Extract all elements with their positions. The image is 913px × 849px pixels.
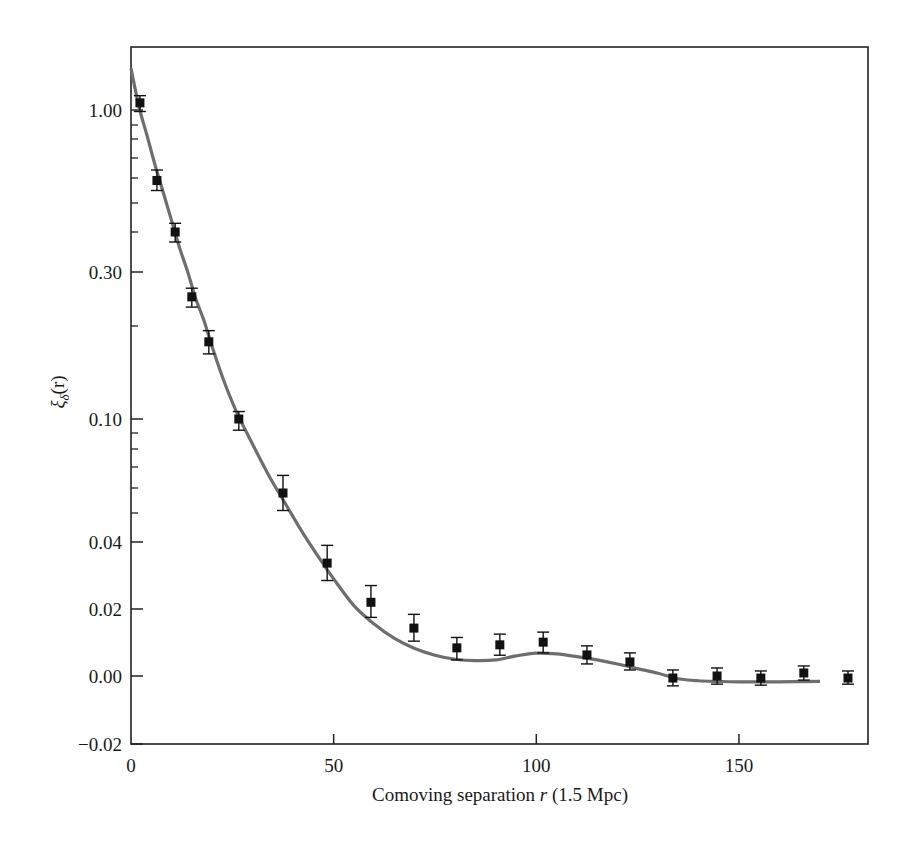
data-points <box>134 96 854 686</box>
x-axis-ticks: 050100150 <box>126 734 753 776</box>
square-marker-icon <box>152 176 161 185</box>
y-tick-label: 0.30 <box>89 262 122 283</box>
square-marker-icon <box>366 598 375 607</box>
square-marker-icon <box>234 415 243 424</box>
model-curve <box>131 68 820 681</box>
chart: 1.000.300.100.040.020.00−0.02 050100150 … <box>0 0 913 849</box>
model-fit-line <box>131 68 820 681</box>
x-axis-label: Comoving separation r (1.5 Mpc) <box>372 784 628 806</box>
data-point <box>581 646 593 664</box>
data-point <box>842 671 854 684</box>
x-tick-label: 50 <box>324 755 343 776</box>
y-tick-label: 0.02 <box>89 599 122 620</box>
data-point <box>451 637 463 659</box>
x-tick-label: 0 <box>126 755 136 776</box>
square-marker-icon <box>495 640 504 649</box>
square-marker-icon <box>204 337 213 346</box>
square-marker-icon <box>713 672 722 681</box>
y-tick-label: 0.00 <box>89 666 122 687</box>
y-tick-label: 1.00 <box>89 100 122 121</box>
square-marker-icon <box>668 674 677 683</box>
data-point <box>186 288 198 307</box>
square-marker-icon <box>409 624 418 633</box>
data-point <box>408 614 420 641</box>
square-marker-icon <box>323 559 332 568</box>
square-marker-icon <box>843 674 852 683</box>
square-marker-icon <box>582 650 591 659</box>
data-point <box>798 666 810 680</box>
square-marker-icon <box>756 674 765 683</box>
data-point <box>169 223 181 242</box>
square-marker-icon <box>278 489 287 498</box>
y-tick-label: −0.02 <box>78 734 122 755</box>
square-marker-icon <box>799 668 808 677</box>
y-axis-ticks: 1.000.300.100.040.020.00−0.02 <box>78 100 143 755</box>
data-point <box>667 670 679 686</box>
square-marker-icon <box>135 98 144 107</box>
data-point <box>494 634 506 655</box>
square-marker-icon <box>625 657 634 666</box>
y-axis-label: ξδ(r) <box>47 375 72 408</box>
data-point <box>365 586 377 618</box>
square-marker-icon <box>171 228 180 237</box>
data-point <box>537 632 549 653</box>
square-marker-icon <box>539 638 548 647</box>
y-tick-label: 0.10 <box>89 409 122 430</box>
y-tick-label: 0.04 <box>89 532 123 553</box>
x-tick-label: 100 <box>522 755 551 776</box>
square-marker-icon <box>187 292 196 301</box>
x-tick-label: 150 <box>725 755 754 776</box>
square-marker-icon <box>452 643 461 652</box>
